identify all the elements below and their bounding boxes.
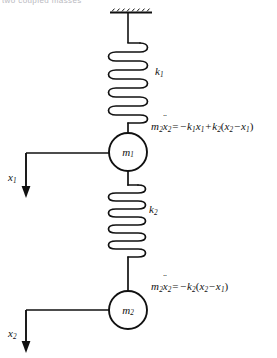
- spring-k2-label: k2: [149, 204, 157, 217]
- mass-m2-label: m2: [122, 305, 134, 318]
- displacement-x2-label: x2: [8, 328, 16, 341]
- spring-k2: [109, 171, 146, 291]
- displacement-x1-label: x1: [8, 172, 16, 185]
- spring-k1: [109, 43, 148, 133]
- mass-m1-label: m1: [122, 147, 134, 160]
- displacement-arrow-x2: [22, 310, 109, 353]
- ceiling-support: [110, 9, 152, 43]
- displacement-arrow-x1: [22, 153, 109, 198]
- diagram-canvas: [0, 0, 277, 358]
- ceiling-hatching: [112, 9, 150, 12]
- equation-of-motion-1: m2x2=−k1x1+k2(x2−x1): [151, 121, 253, 134]
- equation-of-motion-2: m2x2=−k2(x2−x1): [151, 281, 228, 294]
- spring-k1-label: k1: [155, 66, 163, 79]
- spring-mass-diagram: two coupled masses: [0, 0, 277, 358]
